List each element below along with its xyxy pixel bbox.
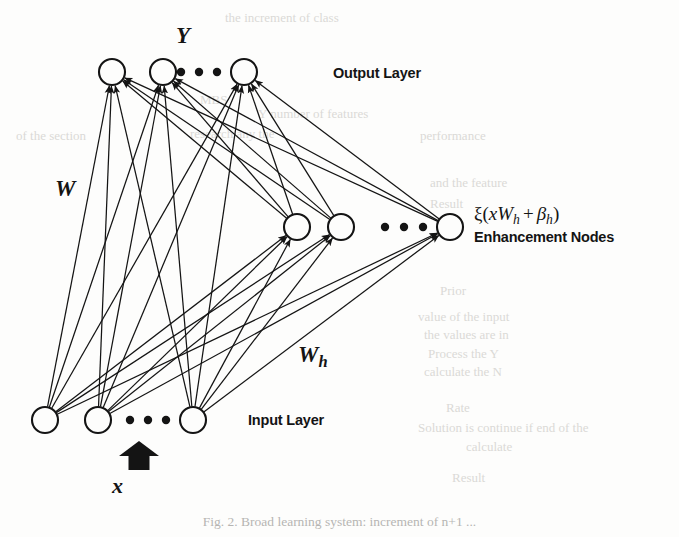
formula-x: x — [489, 203, 497, 224]
enhancement-ellipsis-dot-2 — [400, 223, 408, 231]
weight-wh-label: Wh — [298, 342, 328, 372]
edges-group — [48, 78, 440, 414]
output-node-o2 — [150, 59, 176, 85]
edge-i1-to-e3 — [57, 233, 437, 414]
output-ellipsis-dot-1 — [177, 68, 185, 76]
enhancement-node-e3 — [437, 214, 463, 240]
weight-w-label: W — [55, 176, 75, 202]
formula-W-subscript: h — [513, 212, 520, 227]
enhancement-nodes-label: Enhancement Nodes — [474, 229, 614, 245]
edge-i1-to-e2 — [56, 235, 329, 413]
input-layer-label: Input Layer — [248, 412, 324, 428]
formula-W: W — [497, 203, 513, 224]
edge-e2-to-o3 — [251, 84, 333, 216]
edge-i3-to-e1 — [199, 239, 290, 408]
figure-container: the increment of classY number of featur… — [0, 0, 679, 537]
input-arrow — [119, 441, 159, 470]
input-ellipsis-dot-1 — [126, 416, 134, 424]
input-ellipsis-dot-3 — [162, 416, 170, 424]
edge-i3-to-o1 — [115, 86, 190, 407]
input-node-i3 — [180, 407, 206, 433]
enhancement-node-e2 — [328, 214, 354, 240]
edge-i1-to-e1 — [56, 236, 286, 412]
input-node-i1 — [32, 407, 58, 433]
formula-beta-subscript: h — [546, 212, 553, 227]
input-variable-label: x — [112, 473, 123, 499]
figure-caption: Fig. 2. Broad learning system: increment… — [0, 514, 679, 530]
edge-i3-to-e3 — [204, 235, 439, 411]
enhancement-ellipsis-dot-3 — [419, 223, 427, 231]
output-ellipsis-dot-2 — [195, 68, 203, 76]
enhancement-ellipsis-dot-1 — [381, 223, 389, 231]
formula-plus: + — [520, 203, 537, 224]
edge-e3-to-o2 — [175, 79, 438, 221]
edge-i1-to-o2 — [49, 85, 158, 407]
formula-beta: β — [537, 203, 546, 224]
edge-i3-to-e2 — [201, 238, 332, 409]
output-variable-label: Y — [176, 23, 190, 49]
output-layer-label: Output Layer — [333, 65, 421, 81]
input-ellipsis-dot-2 — [144, 416, 152, 424]
input-node-i2 — [85, 407, 111, 433]
edge-i3-to-o2 — [164, 86, 192, 407]
enhancement-node-e1 — [284, 214, 310, 240]
nodes-group — [32, 59, 463, 433]
edge-i2-to-e3 — [110, 234, 438, 414]
edge-e1-to-o3 — [249, 85, 293, 214]
output-ellipsis-dot-3 — [213, 68, 221, 76]
enhancement-formula-label: ξ(xWh+βh) — [474, 203, 559, 228]
output-node-o3 — [231, 59, 257, 85]
output-node-o1 — [99, 59, 125, 85]
weight-wh-base: W — [298, 342, 318, 367]
formula-close-paren: ) — [553, 203, 559, 224]
weight-wh-subscript: h — [318, 352, 327, 371]
edge-e2-to-o1 — [124, 80, 330, 220]
